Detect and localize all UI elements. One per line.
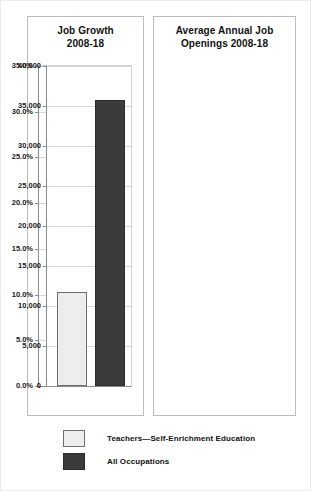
y-axis-tick-mark [43, 266, 47, 267]
y-axis-tick-label: 5,000 [22, 342, 41, 350]
legend-item: Teachers—Self-Enrichment Education [63, 427, 303, 450]
legend-swatch-teachers-self-enrichment-education [63, 430, 85, 447]
y-axis-tick-mark [43, 66, 47, 67]
y-axis-tick-mark [43, 346, 47, 347]
y-axis-tick-mark [35, 112, 39, 113]
bar-all-occupations [95, 100, 125, 386]
y-axis-tick-label: 30,000 [18, 142, 41, 150]
y-axis-tick-label: 40,000 [18, 62, 41, 70]
y-axis-tick-label: 20.0% [12, 199, 33, 207]
y-axis-tick-mark [43, 226, 47, 227]
chart-panel-annual-openings: Average Annual Job Openings 2008-18 [153, 16, 296, 416]
y-axis-tick-label: 15,000 [18, 262, 41, 270]
chart-title-line-1: Average Annual Job [176, 25, 274, 36]
legend-label-teachers-self-enrichment-education: Teachers—Self-Enrichment Education [107, 434, 255, 443]
figure-root: Job Growth 2008-18 0.0%5.0%10.0%15.0%20.… [0, 0, 311, 491]
plot-area-annual-openings: 05,00010,00015,00020,00025,00030,00035,0… [46, 65, 132, 387]
y-axis-tick-label: 35,000 [18, 102, 41, 110]
y-axis-tick-mark [35, 249, 39, 250]
legend-swatch-all-occupations [63, 453, 85, 470]
y-axis-tick-mark [43, 386, 47, 387]
legend-item: All Occupations [63, 450, 303, 473]
chart-title-line-2: 2008-18 [28, 37, 143, 50]
legend: Teachers—Self-Enrichment Education All O… [63, 427, 303, 473]
chart-title-line-2: Openings 2008-18 [154, 37, 295, 50]
y-axis-tick-mark [43, 306, 47, 307]
y-axis-tick-label: 25,000 [18, 182, 41, 190]
y-axis-tick-label: 10,000 [18, 302, 41, 310]
chart-title-line-1: Job Growth [57, 25, 114, 36]
gridline [47, 66, 131, 67]
chart-title-job-growth: Job Growth 2008-18 [28, 24, 143, 50]
y-axis-tick-mark [35, 203, 39, 204]
chart-title-annual-openings: Average Annual Job Openings 2008-18 [154, 24, 295, 50]
bar-teachers-self-enrichment-education [57, 292, 87, 386]
y-axis-tick-label: 0 [37, 382, 41, 390]
y-axis-tick-label: 20,000 [18, 222, 41, 230]
y-axis-tick-label: 10.0% [12, 291, 33, 299]
y-axis-tick-mark [43, 186, 47, 187]
y-axis-tick-label: 15.0% [12, 245, 33, 253]
legend-label-all-occupations: All Occupations [107, 457, 169, 466]
y-axis-tick-mark [43, 106, 47, 107]
y-axis-tick-mark [35, 157, 39, 158]
y-axis-tick-mark [43, 146, 47, 147]
y-axis-tick-label: 25.0% [12, 154, 33, 162]
y-axis-tick-label: 0.0% [16, 382, 33, 390]
y-axis-tick-mark [35, 295, 39, 296]
